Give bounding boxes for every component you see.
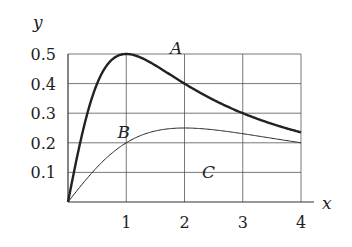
x-axis-label: x: [322, 193, 332, 213]
y-tick-label: 0.1: [31, 163, 56, 182]
chart: 12340.10.20.30.40.5 ABC x y: [0, 0, 352, 247]
y-tick-label: 0.5: [31, 45, 56, 64]
y-axis-label: y: [32, 12, 43, 32]
y-tick-label: 0.3: [31, 104, 56, 123]
x-tick-label: 2: [179, 213, 189, 232]
curve-labels: ABC: [117, 38, 215, 182]
x-tick-label: 3: [238, 213, 248, 232]
curve-label-b: B: [117, 122, 131, 142]
curve-label-c: C: [202, 162, 215, 182]
x-tick-label: 1: [121, 213, 131, 232]
curve-label-a: A: [168, 38, 182, 58]
y-tick-label: 0.2: [31, 134, 56, 153]
y-tick-label: 0.4: [31, 75, 56, 94]
x-tick-label: 4: [296, 213, 306, 232]
